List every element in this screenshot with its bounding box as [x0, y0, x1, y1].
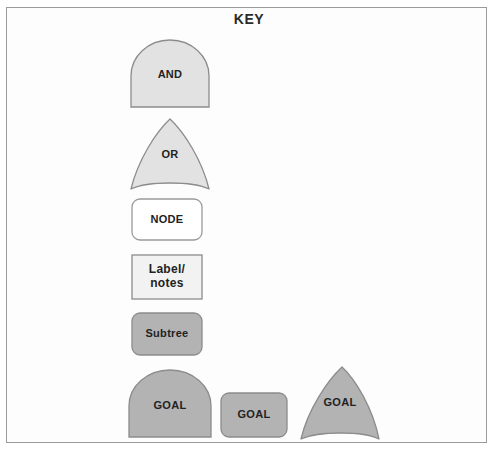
legend-shape-label-notes: Label/ notes: [131, 254, 203, 300]
legend-shape-goal-rect: GOAL: [220, 392, 288, 438]
subtree-shape-icon: [131, 312, 203, 356]
goal-arch-shape-icon: [298, 366, 382, 440]
legend-shape-goal-arch: GOAL: [298, 366, 382, 440]
legend-shape-goal-dome: GOAL: [128, 368, 212, 438]
and-shape-icon: [130, 38, 210, 108]
legend-shape-subtree: Subtree: [131, 312, 203, 356]
legend-shape-node: NODE: [131, 198, 203, 241]
goal-rect-shape-icon: [220, 392, 288, 438]
key-diagram: KEY AND OR NODE Label/ notes S: [0, 0, 498, 454]
legend-shape-and: AND: [130, 38, 210, 108]
label-notes-shape-icon: [131, 254, 203, 300]
legend-shape-or: OR: [128, 118, 212, 190]
node-shape-icon: [131, 198, 203, 241]
goal-dome-shape-icon: [128, 368, 212, 438]
diagram-title: KEY: [0, 11, 498, 27]
or-shape-icon: [128, 118, 212, 190]
diagram-frame: [6, 7, 487, 443]
